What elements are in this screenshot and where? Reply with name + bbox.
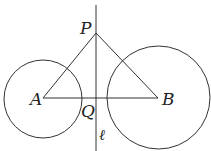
label-a: A — [28, 89, 42, 109]
label-p: P — [79, 18, 92, 38]
segment-pb — [96, 33, 158, 98]
segment-pa — [43, 33, 96, 98]
circle-a — [4, 60, 82, 138]
geometry-diagram: P A B Q ℓ — [0, 0, 211, 151]
label-line-l: ℓ — [99, 126, 105, 144]
label-q: Q — [81, 101, 95, 121]
label-b: B — [161, 89, 175, 109]
